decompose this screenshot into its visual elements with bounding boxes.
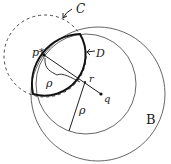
arrow-to-d [87, 49, 95, 55]
label-c: C [76, 2, 85, 16]
label-rho-lower: ρ [78, 104, 86, 117]
label-d: D [95, 47, 105, 60]
label-r: r [89, 73, 95, 84]
point-q [99, 92, 102, 95]
arrow-to-c [63, 9, 72, 18]
point-r [84, 81, 86, 83]
label-b: B [146, 112, 156, 127]
label-p-star: p* [32, 46, 45, 59]
label-rho-upper: ρ [45, 77, 53, 90]
label-q: q [104, 93, 110, 104]
circles-diagram: C D B p* r q ρ ρ [0, 0, 171, 164]
diagram-canvas: C D B p* r q ρ ρ [0, 0, 171, 164]
